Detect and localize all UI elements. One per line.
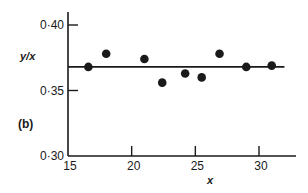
y-tick-label: 0·30 [40,149,64,163]
x-axis-label: x [206,174,214,186]
data-point [242,63,251,72]
x-tick-label: 30 [254,159,268,173]
data-point [84,63,93,72]
data-point [102,50,111,59]
scatter-chart: 0·300·350·4015202530 y/x x (b) [0,0,308,193]
data-point [158,78,167,87]
data-point [181,69,190,78]
y-tick-label: 0·40 [40,18,64,32]
axes: 0·300·350·4015202530 [40,12,296,173]
x-tick-label: 15 [63,159,77,173]
data-point [267,61,276,70]
data-point [215,50,224,59]
y-tick-label: 0·35 [40,84,64,98]
y-axis-label: y/x [19,50,36,62]
x-tick-label: 20 [127,159,141,173]
panel-label: (b) [18,117,33,131]
data-point [197,73,206,82]
x-tick-label: 25 [191,159,205,173]
data-point [140,55,149,64]
data-points [84,50,276,87]
